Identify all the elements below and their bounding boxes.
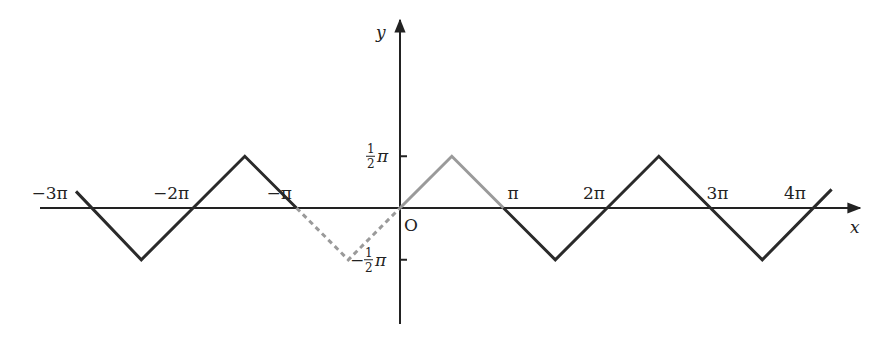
axes: x y O: [40, 20, 860, 324]
triangle-wave-graph: x y O −3π−2π−ππ2π3π4π 12π−12π: [0, 0, 893, 346]
svg-text:2: 2: [367, 157, 375, 171]
svg-text:2: 2: [365, 261, 373, 275]
x-axis-label: x: [850, 217, 860, 237]
x-tick-label: π: [508, 183, 519, 203]
svg-text:−: −: [350, 250, 364, 270]
y-tick-label: 12π: [366, 142, 389, 171]
x-tick-label: −2π: [153, 183, 189, 203]
svg-text:1: 1: [365, 246, 373, 260]
x-tick-label: −3π: [32, 183, 68, 203]
x-tick-label: 4π: [784, 183, 806, 203]
x-tick-label: −π: [267, 183, 292, 203]
origin-label: O: [404, 215, 418, 235]
y-tick-label: −12π: [350, 246, 387, 275]
x-tick-label: 2π: [583, 183, 605, 203]
svg-text:π: π: [374, 250, 387, 270]
y-axis-label: y: [375, 22, 386, 42]
svg-text:π: π: [376, 146, 389, 166]
series-line-2: [400, 156, 504, 208]
x-tick-label: 3π: [707, 183, 729, 203]
svg-text:1: 1: [367, 142, 375, 156]
